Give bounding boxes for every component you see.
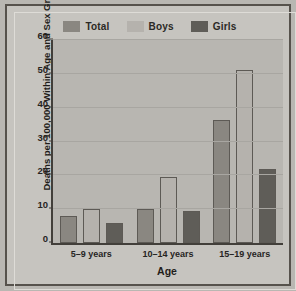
y-tick-label: 50 <box>37 63 48 74</box>
gridline <box>53 39 283 40</box>
gridline <box>53 208 283 209</box>
plot-wrapper: 5–9 years10–14 years15–19 years 01020304… <box>51 40 283 245</box>
bar-groups: 5–9 years10–14 years15–19 years <box>53 40 283 243</box>
gridline <box>53 174 283 175</box>
bar-group: 15–19 years <box>206 40 283 243</box>
y-axis-title-holder: Deaths per 100,000 Within Age and Sex Gr… <box>23 40 37 245</box>
bar-girls <box>259 169 276 243</box>
bar-total <box>137 209 154 243</box>
legend-swatch-total <box>63 21 80 32</box>
plot-area: 5–9 years10–14 years15–19 years 01020304… <box>51 40 283 245</box>
y-tick-label: 0 <box>43 233 48 244</box>
legend-swatch-girls <box>191 21 208 32</box>
legend-label-total: Total <box>85 21 109 32</box>
bar-boys <box>160 177 177 243</box>
bar-total <box>60 216 77 243</box>
y-tick-label: 40 <box>37 97 48 108</box>
bar-total <box>213 120 230 243</box>
legend-item-boys: Boys <box>127 21 174 32</box>
bar-group: 5–9 years <box>53 40 130 243</box>
bar-boys <box>83 209 100 243</box>
y-tick-mark <box>49 39 53 40</box>
y-tick-mark <box>49 242 53 243</box>
y-tick-mark <box>49 106 53 107</box>
y-tick-label: 20 <box>37 165 48 176</box>
x-tick-label: 10–14 years <box>142 249 193 259</box>
legend-item-girls: Girls <box>191 21 237 32</box>
bar-girls <box>106 223 123 243</box>
gridline <box>53 73 283 74</box>
legend-label-girls: Girls <box>213 21 237 32</box>
bar-group: 10–14 years <box>130 40 207 243</box>
y-tick-mark <box>49 208 53 209</box>
gridline <box>53 107 283 108</box>
y-tick-label: 10 <box>37 199 48 210</box>
y-tick-mark <box>49 72 53 73</box>
x-axis-title: Age <box>51 265 283 277</box>
x-tick-label: 15–19 years <box>219 249 270 259</box>
chart-frame: TotalBoysGirls Deaths per 100,000 Within… <box>5 4 291 286</box>
figure-container: TotalBoysGirls Deaths per 100,000 Within… <box>0 0 296 291</box>
legend-label-boys: Boys <box>149 21 174 32</box>
x-tick-label: 5–9 years <box>71 249 112 259</box>
bar-boys <box>236 70 253 243</box>
gridline <box>53 141 283 142</box>
chart-legend: TotalBoysGirls <box>7 21 293 32</box>
y-tick-mark <box>49 140 53 141</box>
bar-girls <box>183 211 200 243</box>
legend-item-total: Total <box>63 21 109 32</box>
y-tick-mark <box>49 174 53 175</box>
y-tick-label: 30 <box>37 131 48 142</box>
legend-swatch-boys <box>127 21 144 32</box>
